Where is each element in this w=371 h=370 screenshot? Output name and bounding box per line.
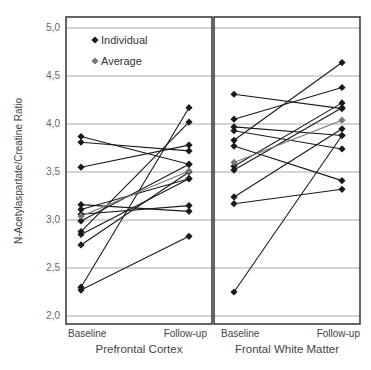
panel-title: Frontal White Matter bbox=[235, 343, 339, 355]
individual-marker bbox=[230, 193, 237, 200]
individual-marker bbox=[230, 288, 237, 295]
panels: BaselineFollow-upPrefrontal CortexBaseli… bbox=[66, 17, 360, 355]
individual-line bbox=[81, 108, 189, 288]
y-tick-label: 3,0 bbox=[46, 214, 60, 225]
individual-marker bbox=[338, 59, 345, 66]
individual-marker bbox=[230, 91, 237, 98]
individual-marker bbox=[338, 177, 345, 184]
legend: IndividualAverage bbox=[91, 34, 147, 67]
legend-marker bbox=[91, 57, 98, 64]
individual-marker bbox=[185, 233, 192, 240]
individual-line bbox=[234, 131, 342, 149]
individual-marker bbox=[77, 139, 84, 146]
individual-marker bbox=[230, 166, 237, 173]
x-tick-follow-up: Follow-up bbox=[317, 328, 361, 339]
individual-marker bbox=[338, 125, 345, 132]
individual-line bbox=[81, 145, 189, 167]
legend-label: Average bbox=[101, 55, 142, 67]
x-tick-baseline: Baseline bbox=[68, 328, 107, 339]
individual-marker bbox=[185, 175, 192, 182]
individual-line bbox=[81, 236, 189, 290]
individual-marker bbox=[185, 142, 192, 149]
y-tick-label: 4,5 bbox=[46, 70, 60, 81]
individual-line bbox=[81, 164, 189, 221]
individual-marker bbox=[77, 164, 84, 171]
individual-marker bbox=[338, 104, 345, 111]
individual-marker bbox=[338, 186, 345, 193]
y-axis-label: N-Acetylaspartate/Creatine Ratio bbox=[13, 97, 24, 244]
individual-line bbox=[234, 63, 342, 141]
individual-line bbox=[234, 136, 342, 292]
individual-line bbox=[234, 88, 342, 120]
individual-marker bbox=[230, 142, 237, 149]
y-axis-ticks: 5,04,54,03,53,02,52,0 bbox=[46, 22, 60, 321]
y-tick-label: 3,5 bbox=[46, 166, 60, 177]
y-tick-label: 5,0 bbox=[46, 22, 60, 33]
x-tick-follow-up: Follow-up bbox=[164, 328, 208, 339]
chart: N-Acetylaspartate/Creatine Ratio 5,04,54… bbox=[0, 0, 371, 370]
legend-label: Individual bbox=[101, 34, 147, 46]
individual-marker bbox=[338, 145, 345, 152]
individual-line bbox=[81, 142, 189, 151]
individual-marker bbox=[338, 132, 345, 139]
individual-marker bbox=[230, 200, 237, 207]
panel-prefrontal-cortex: BaselineFollow-upPrefrontal Cortex bbox=[66, 17, 212, 355]
individual-line bbox=[81, 172, 189, 245]
y-tick-label: 2,0 bbox=[46, 310, 60, 321]
individual-marker bbox=[338, 84, 345, 91]
individual-marker bbox=[77, 241, 84, 248]
individual-marker bbox=[185, 104, 192, 111]
individual-line bbox=[81, 136, 189, 164]
average-line bbox=[234, 120, 342, 162]
panel-frontal-white-matter: BaselineFollow-upFrontal White Matter bbox=[214, 17, 360, 355]
individual-marker bbox=[230, 127, 237, 134]
legend-marker bbox=[91, 36, 98, 43]
y-tick-label: 4,0 bbox=[46, 118, 60, 129]
average-marker bbox=[338, 117, 345, 124]
x-tick-baseline: Baseline bbox=[221, 328, 260, 339]
individual-line bbox=[81, 122, 189, 231]
individual-marker bbox=[185, 161, 192, 168]
individual-marker bbox=[230, 116, 237, 123]
individual-marker bbox=[185, 202, 192, 209]
y-tick-label: 2,5 bbox=[46, 262, 60, 273]
individual-line bbox=[234, 189, 342, 203]
panel-title: Prefrontal Cortex bbox=[96, 343, 183, 355]
